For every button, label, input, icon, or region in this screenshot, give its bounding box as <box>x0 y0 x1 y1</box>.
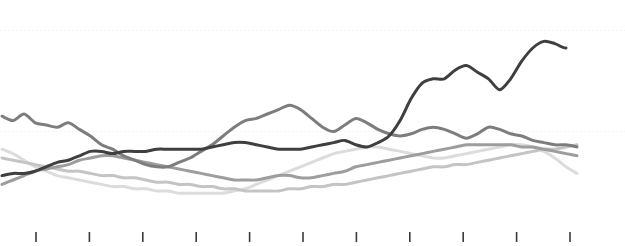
x-axis-ticks-group <box>36 232 570 242</box>
gridlines-group <box>0 30 625 131</box>
chart-plot-area <box>0 0 625 246</box>
series-group <box>2 41 577 193</box>
line-chart-container <box>0 0 625 246</box>
